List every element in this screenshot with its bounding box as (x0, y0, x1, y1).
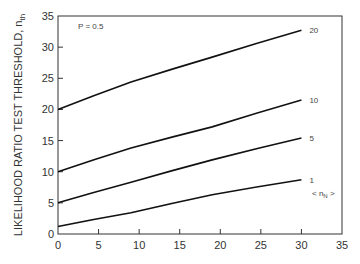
y-tick-label: 25 (42, 72, 54, 84)
series-lines: 201051 (58, 26, 319, 226)
x-tick-label: 35 (336, 239, 348, 251)
y-tick-label: 5 (48, 197, 54, 209)
series-line-5 (58, 138, 301, 203)
annotation-p: P = 0.5 (78, 22, 104, 31)
series-label-1: 1 (309, 176, 314, 185)
y-axis-ticks: 05101520253035 (42, 10, 63, 240)
series-label-10: 10 (309, 96, 318, 105)
chart: 05101520253035 05101520253035 201051 P =… (0, 0, 360, 264)
y-axis-label: LIKELIHOOD RATIO TEST THRESHOLD, nth (12, 14, 27, 236)
x-tick-label: 10 (133, 239, 145, 251)
x-tick-label: 15 (174, 239, 186, 251)
x-tick-label: 20 (214, 239, 226, 251)
x-tick-label: 30 (295, 239, 307, 251)
series-line-10 (58, 100, 301, 172)
y-tick-label: 30 (42, 41, 54, 53)
plot-frame (58, 16, 342, 234)
x-tick-label: 0 (55, 239, 61, 251)
legend-title: < nN > (312, 189, 335, 199)
y-tick-label: 0 (48, 228, 54, 240)
x-tick-label: 5 (96, 239, 102, 251)
series-line-20 (58, 30, 301, 109)
series-line-1 (58, 180, 301, 227)
x-axis-ticks: 05101520253035 (55, 229, 348, 251)
y-tick-label: 35 (42, 10, 54, 22)
y-tick-label: 10 (42, 166, 54, 178)
series-label-5: 5 (309, 134, 314, 143)
y-tick-label: 15 (42, 135, 54, 147)
y-tick-label: 20 (42, 103, 54, 115)
series-label-20: 20 (309, 26, 318, 35)
x-tick-label: 25 (255, 239, 267, 251)
